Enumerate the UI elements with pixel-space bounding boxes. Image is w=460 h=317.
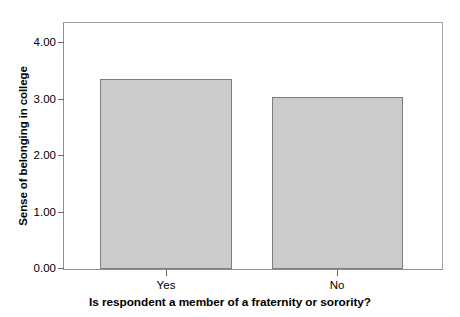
y-tick-label-4: 4.00 <box>12 36 56 48</box>
x-tick-mark-no <box>337 270 338 276</box>
x-tick-label-yes: Yes <box>157 279 176 292</box>
bar-yes <box>100 79 232 269</box>
x-tick-mark-yes <box>166 270 167 276</box>
y-tick-mark-0 <box>58 268 64 269</box>
y-tick-label-2: 2.00 <box>12 149 56 161</box>
y-tick-mark-1 <box>58 212 64 213</box>
bar-chart-figure: Sense of belonging in college 4.00 3.00 … <box>0 0 460 317</box>
y-tick-mark-2 <box>58 155 64 156</box>
y-axis-title: Sense of belonging in college <box>14 22 32 270</box>
y-tick-label-0: 0.00 <box>12 262 56 274</box>
y-tick-label-3: 3.00 <box>12 93 56 105</box>
bar-no <box>272 97 403 269</box>
x-axis-title: Is respondent a member of a fraternity o… <box>0 295 460 309</box>
y-tick-label-1: 1.00 <box>12 206 56 218</box>
y-tick-mark-3 <box>58 99 64 100</box>
x-tick-label-no: No <box>330 279 345 292</box>
y-tick-mark-4 <box>58 42 64 43</box>
